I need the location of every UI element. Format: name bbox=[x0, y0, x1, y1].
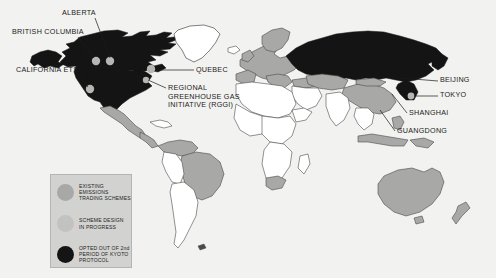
region-russia bbox=[286, 31, 442, 82]
region-kamchatka bbox=[432, 54, 448, 70]
region-indonesia bbox=[358, 134, 408, 146]
region-new-zealand bbox=[452, 202, 470, 224]
legend-item-progress: SCHEME DESIGN IN PROGRESS bbox=[57, 215, 124, 232]
legend-progress-line1: SCHEME DESIGN bbox=[79, 217, 124, 223]
map-figure: ALBERTA BRITISH COLUMBIA CALIFORNIA ETS … bbox=[0, 0, 496, 278]
legend-item-opted-out: OPTED OUT OF 2nd PERIOD OF KYOTO PROTOCO… bbox=[57, 245, 129, 263]
legend-opted-line3: PROTOCOL bbox=[79, 257, 129, 263]
region-madagascar bbox=[298, 154, 310, 174]
legend-existing-line2: TRADING SCHEMES bbox=[79, 195, 131, 201]
label-british-columbia: BRITISH COLUMBIA bbox=[12, 28, 84, 37]
label-rggi: REGIONAL GREENHOUSE GAS INITIATIVE (RGGI… bbox=[168, 84, 246, 110]
region-tasmania bbox=[414, 216, 424, 224]
legend-swatch-opted-out-icon bbox=[57, 246, 74, 263]
region-korea-japan bbox=[396, 80, 418, 100]
region-iceland bbox=[228, 46, 240, 54]
region-central-africa bbox=[262, 116, 296, 144]
legend-label-existing: EXISTING EMISSIONS TRADING SCHEMES bbox=[79, 183, 131, 201]
region-scandinavia bbox=[262, 28, 290, 52]
region-middle-east bbox=[292, 86, 322, 110]
marker-british-columbia bbox=[92, 57, 100, 65]
region-south-africa bbox=[266, 176, 286, 190]
region-usa bbox=[74, 66, 152, 110]
label-alberta: ALBERTA bbox=[62, 9, 96, 18]
region-chile-argentina bbox=[170, 182, 198, 248]
label-beijing: BEIJING bbox=[440, 76, 470, 85]
legend-swatch-progress-icon bbox=[57, 215, 74, 232]
marker-quebec bbox=[147, 65, 155, 73]
marker-alberta bbox=[106, 57, 114, 65]
region-horn-africa bbox=[292, 108, 312, 122]
legend-existing-line1: EXISTING EMISSIONS bbox=[79, 183, 131, 195]
legend-swatch-existing-icon bbox=[57, 184, 74, 201]
region-new-guinea bbox=[410, 138, 434, 148]
map-legend: EXISTING EMISSIONS TRADING SCHEMES SCHEM… bbox=[50, 174, 132, 268]
region-peru-bolivia bbox=[162, 152, 184, 184]
legend-label-opted-out: OPTED OUT OF 2nd PERIOD OF KYOTO PROTOCO… bbox=[79, 245, 129, 263]
region-india bbox=[326, 92, 350, 126]
legend-progress-line2: IN PROGRESS bbox=[79, 224, 124, 230]
region-caribbean bbox=[150, 120, 172, 128]
legend-label-progress: SCHEME DESIGN IN PROGRESS bbox=[79, 217, 124, 229]
label-quebec: QUEBEC bbox=[196, 66, 228, 75]
marker-tokyo bbox=[408, 93, 415, 100]
region-falklands bbox=[198, 244, 206, 250]
label-shanghai: SHANGHAI bbox=[409, 109, 449, 118]
region-mongolia bbox=[356, 78, 386, 86]
label-tokyo: TOKYO bbox=[440, 91, 466, 100]
region-mexico bbox=[100, 106, 146, 138]
legend-item-existing: EXISTING EMISSIONS TRADING SCHEMES bbox=[57, 183, 131, 201]
region-central-america bbox=[140, 132, 158, 148]
label-guangdong: GUANGDONG bbox=[397, 127, 447, 136]
region-sea-mainland bbox=[354, 108, 374, 130]
label-california-ets: CALIFORNIA ETS bbox=[16, 66, 78, 75]
region-australia bbox=[378, 168, 444, 216]
region-greenland bbox=[174, 25, 220, 62]
